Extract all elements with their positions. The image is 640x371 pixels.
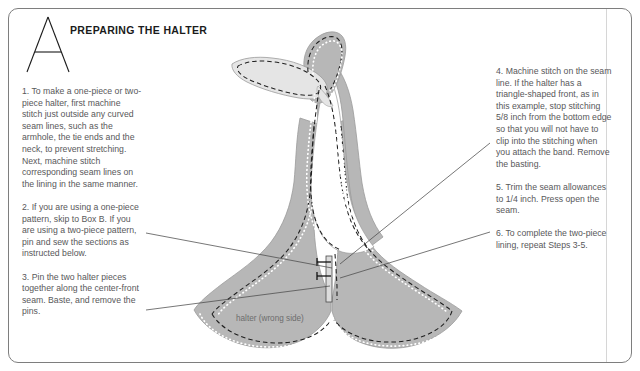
page-title: PREPARING THE HALTER (70, 24, 207, 36)
section-header: PREPARING THE HALTER (22, 14, 322, 76)
step-6-text: 6. To complete the two-piece lining, rep… (496, 228, 612, 251)
drop-cap-letter-a (22, 14, 74, 74)
instructions-left-column: 1. To make a one-piece or two-piece halt… (22, 86, 142, 318)
figure-caption: halter (wrong side) (236, 314, 304, 323)
step-5-text: 5. Trim the seam allowances to 1/4 inch.… (496, 182, 612, 217)
step-4-text: 4. Machine stitch on the seam line. If t… (496, 66, 612, 170)
step-3-text: 3. Pin the two halter pieces together al… (22, 272, 142, 318)
step-2-text: 2. If you are using a one-piece pattern,… (22, 202, 142, 260)
instructions-right-column: 4. Machine stitch on the seam line. If t… (496, 66, 612, 252)
seam-allowance-rect (326, 256, 332, 302)
step-1-text: 1. To make a one-piece or two-piece halt… (22, 86, 142, 190)
page-root: halter (wrong side) PREPARING THE HALTER… (0, 0, 640, 371)
